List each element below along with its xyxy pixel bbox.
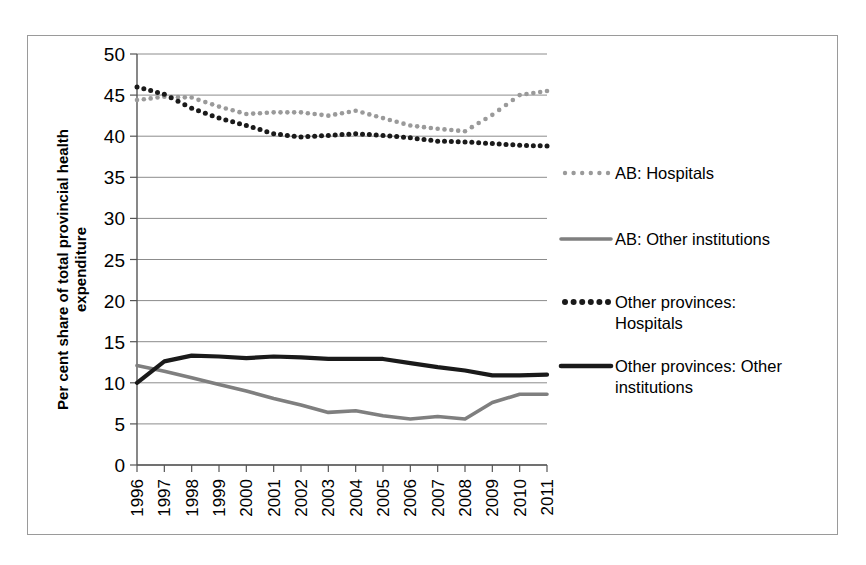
- legend-marker-dot: [571, 171, 575, 175]
- legend-marker-dot: [606, 171, 610, 175]
- series-dot: [326, 113, 331, 118]
- series-dot: [196, 108, 201, 113]
- series-dot: [237, 121, 242, 126]
- series-dot: [278, 110, 283, 115]
- series-dot: [333, 112, 338, 117]
- series-dot: [189, 106, 194, 111]
- x-tick-label: 2000: [237, 479, 256, 517]
- series-dot: [155, 95, 160, 100]
- series-dot: [333, 132, 338, 137]
- series-dot: [449, 128, 454, 133]
- series-dot: [442, 139, 447, 144]
- series-dot: [504, 142, 509, 147]
- series-dot: [196, 98, 201, 103]
- y-tick-label: 45: [104, 85, 125, 106]
- series-dot: [141, 86, 146, 91]
- series-dot: [428, 138, 433, 143]
- x-tick-label: 1999: [210, 479, 229, 517]
- y-tick-label: 40: [104, 126, 125, 147]
- svg-text:expenditure: expenditure: [72, 227, 89, 312]
- legend-item-3[interactable]: Other provinces: Otherinstitutions: [561, 357, 782, 396]
- series-dot: [353, 108, 358, 113]
- series-dot: [353, 131, 358, 136]
- series-dot: [340, 132, 345, 137]
- series-dot: [429, 126, 434, 131]
- series-dot: [264, 129, 269, 134]
- series-dot: [271, 110, 276, 115]
- series-dot: [504, 103, 509, 108]
- series-dot: [210, 102, 215, 107]
- series-dot: [244, 123, 249, 128]
- legend-item-1[interactable]: AB: Other institutions: [561, 230, 770, 248]
- series-dot: [135, 84, 140, 89]
- legend-label: Hospitals: [615, 314, 683, 332]
- series-dot: [469, 140, 474, 145]
- series-dot: [497, 108, 502, 113]
- series-dot: [394, 120, 399, 125]
- y-tick-label: 20: [104, 291, 125, 312]
- series-dot: [449, 139, 454, 144]
- series-dot: [183, 95, 188, 100]
- legend-marker-dot: [579, 299, 585, 305]
- x-tick-label: 2005: [374, 479, 393, 517]
- legend-marker-dot: [597, 171, 601, 175]
- series-dot: [538, 90, 543, 95]
- series-dot: [217, 104, 222, 109]
- x-tick-label: 1996: [128, 479, 147, 517]
- series-dot: [292, 110, 297, 115]
- legend-item-0[interactable]: AB: Hospitals: [563, 164, 714, 182]
- series-dot: [463, 129, 468, 134]
- legend-marker-dot: [563, 171, 567, 175]
- legend-marker-dot: [589, 171, 593, 175]
- legend-marker-dot: [588, 299, 594, 305]
- series-dot: [265, 110, 270, 115]
- series-dot: [258, 111, 263, 116]
- series-dot: [148, 88, 153, 93]
- series-dot: [422, 125, 427, 130]
- series-dot: [182, 102, 187, 107]
- series-dot: [442, 127, 447, 132]
- series-dot: [135, 98, 140, 103]
- series-dot: [374, 114, 379, 119]
- y-tick-label: 35: [104, 167, 125, 188]
- series-dot: [169, 95, 174, 100]
- series-dot: [456, 128, 461, 133]
- series-dot: [299, 110, 304, 115]
- series-dot: [319, 133, 324, 138]
- series-dot: [244, 112, 249, 117]
- series-dot: [497, 142, 502, 147]
- series-dot: [292, 134, 297, 139]
- series-dot: [490, 141, 495, 146]
- series-dot: [408, 135, 413, 140]
- series-dot: [210, 113, 215, 118]
- series-dot: [224, 106, 229, 111]
- series-dot: [285, 110, 290, 115]
- x-tick-label: 2008: [456, 479, 475, 517]
- series-dot: [176, 99, 181, 104]
- series-dot: [381, 133, 386, 138]
- series-dot: [278, 132, 283, 137]
- series-dot: [524, 143, 529, 148]
- legend-label: Other provinces: Other: [615, 357, 782, 375]
- y-axis-label: Per cent share of total provincial healt…: [54, 129, 89, 410]
- y-tick-label: 15: [104, 332, 125, 353]
- series-dot: [401, 121, 406, 126]
- series-dot: [394, 134, 399, 139]
- series-dot: [422, 137, 427, 142]
- legend-marker-dot: [596, 299, 602, 305]
- series-dot: [346, 132, 351, 137]
- legend-item-2[interactable]: Other provinces:Hospitals: [562, 293, 736, 332]
- series-dot: [381, 116, 386, 121]
- y-axis-ticks: 05101520253035404550: [104, 44, 137, 476]
- x-tick-label: 2011: [538, 479, 557, 516]
- series-dot: [305, 134, 310, 139]
- series-dot: [217, 116, 222, 121]
- series-dot: [360, 132, 365, 137]
- x-tick-label: 2001: [265, 479, 284, 517]
- y-tick-label: 50: [104, 44, 125, 65]
- series-group: [135, 84, 550, 419]
- x-tick-label: 2010: [511, 479, 530, 517]
- series-dot: [271, 131, 276, 136]
- series-dot: [203, 100, 208, 105]
- series-dot: [189, 95, 194, 100]
